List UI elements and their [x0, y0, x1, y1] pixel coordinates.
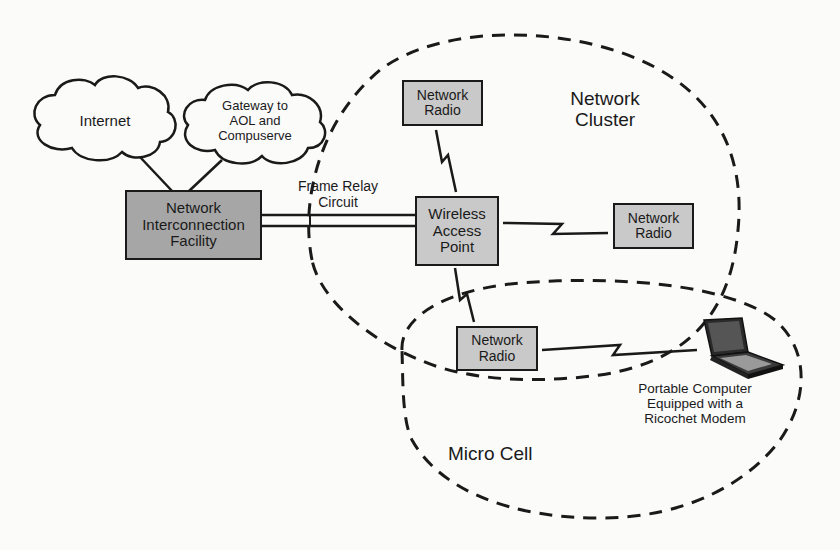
nif-label: Network Interconnection Facility — [142, 200, 245, 250]
network-cluster-label: Network Cluster — [555, 88, 655, 131]
frame-relay-circuit-line — [261, 215, 417, 226]
network-radio-bottom-box[interactable]: Network Radio — [456, 326, 538, 371]
frame-relay-label: Frame Relay Circuit — [278, 179, 398, 210]
internet-label: Internet — [55, 113, 155, 130]
wireless-link-laptop — [542, 345, 697, 355]
network-interconnection-facility-box[interactable]: Network Interconnection Facility — [125, 190, 262, 260]
radio-top-label: Network Radio — [417, 88, 468, 119]
wireless-access-point-box[interactable]: Wireless Access Point — [415, 196, 499, 266]
laptop-icon — [704, 318, 783, 379]
laptop-label: Portable Computer Equipped with a Ricoch… — [610, 381, 780, 426]
network-radio-top-box[interactable]: Network Radio — [402, 80, 483, 126]
wireless-link-top — [436, 130, 456, 192]
network-radio-right-box[interactable]: Network Radio — [613, 203, 694, 249]
micro-cell-label: Micro Cell — [448, 443, 568, 464]
internet-link — [140, 157, 173, 192]
wireless-link-right — [503, 223, 608, 234]
radio-bottom-label: Network Radio — [471, 333, 522, 364]
gateway-link — [188, 160, 222, 192]
network-diagram: Internet Gateway to AOL and Compuserve N… — [0, 0, 840, 550]
gateway-label: Gateway to AOL and Compuserve — [200, 99, 310, 144]
radio-right-label: Network Radio — [628, 211, 679, 242]
wap-label: Wireless Access Point — [428, 206, 486, 256]
wireless-link-bottom — [455, 268, 474, 322]
